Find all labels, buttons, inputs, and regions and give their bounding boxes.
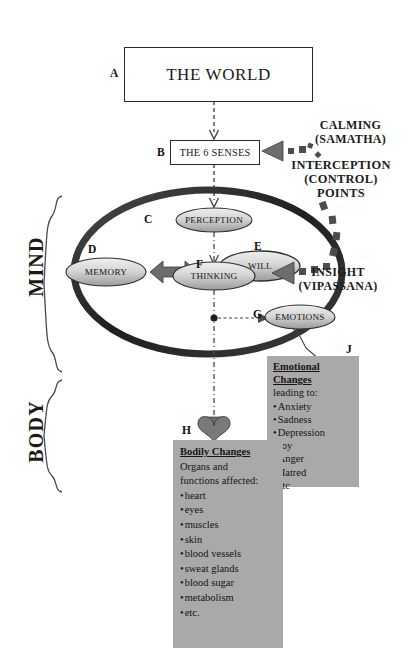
senses-box: THE 6 SENSES [170,140,260,165]
calming-line-1: CALMING [288,118,413,132]
list-item: skin [180,533,277,548]
list-item: Hatred [273,466,354,479]
body-bracket-label: BODY [25,382,48,482]
bodily-heading: Bodily Changes [180,445,277,460]
diagram-canvas: A THE WORLD B THE 6 SENSES CALMING (SAMA… [0,0,417,670]
node-memory-label: MEMORY [85,267,127,277]
node-memory: MEMORY [66,260,146,284]
emotional-heading-line-2: Changes [273,373,354,386]
interception-line-2: (CONTROL) [268,172,414,186]
list-item: etc. [180,606,277,621]
list-item: muscles [180,518,277,533]
label-tag-g: G [253,308,262,320]
label-tag-d: D [88,243,96,255]
list-item: blood sugar [180,576,277,591]
node-emotions-label: EMOTIONS [275,312,324,322]
world-box: THE WORLD [124,47,313,102]
label-tag-j: J [346,343,352,355]
list-item: Anger [273,452,354,465]
list-item: Anxiety [273,400,354,413]
emotional-items-list: Anxiety Sadness Depression Joy Anger Hat… [273,400,354,492]
calming-label: CALMING (SAMATHA) [288,118,413,146]
label-tag-e: E [254,240,262,252]
list-item: Depression [273,426,354,439]
node-thinking: THINKING [174,264,254,288]
bodily-items-list: heart eyes muscles skin blood vessels sw… [180,489,277,620]
label-tag-b: B [157,146,165,158]
world-box-label: THE WORLD [166,65,271,85]
bodily-subheading-line-1: Organs and [180,460,277,475]
emotional-subheading: leading to: [273,386,354,399]
label-tag-a: A [110,67,118,79]
node-emotions: EMOTIONS [265,305,335,329]
list-item: blood vessels [180,547,277,562]
node-thinking-label: THINKING [191,271,238,281]
bodily-changes-panel: Bodily Changes Organs and functions affe… [173,440,283,648]
list-item: Sadness [273,413,354,426]
interception-points-label: INTERCEPTION (CONTROL) POINTS [268,158,414,200]
node-perception: PERCEPTION [176,208,252,232]
interception-line-1: INTERCEPTION [268,158,414,172]
list-item: Joy [273,439,354,452]
list-item: etc [273,479,354,492]
list-item: metabolism [180,591,277,606]
list-item: heart [180,489,277,504]
node-perception-label: PERCEPTION [185,215,243,225]
senses-box-label: THE 6 SENSES [179,147,250,158]
arrow-world-to-senses [210,101,219,139]
mind-bracket-label: MIND [25,222,48,312]
emotional-heading-line-1: Emotional [273,360,354,373]
interception-line-3: POINTS [268,186,414,200]
label-tag-h: H [182,424,191,436]
insight-line-2: (VIPASSANA) [276,279,400,293]
label-tag-c: C [144,213,152,225]
list-item: eyes [180,503,277,518]
arrow-senses-to-perception [210,164,219,207]
spine-dash-dot [210,232,219,428]
bodily-subheading-line-2: functions affected: [180,474,277,489]
calming-line-2: (SAMATHA) [288,132,413,146]
list-item: sweat glands [180,562,277,577]
